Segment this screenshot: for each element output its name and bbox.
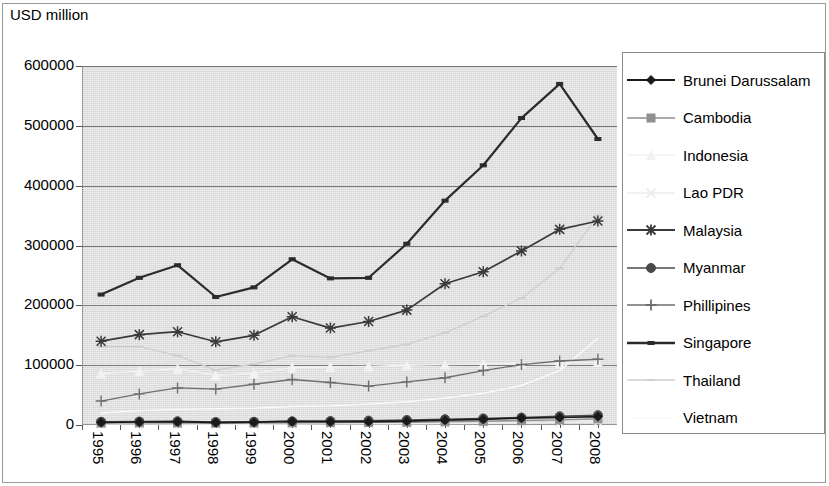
- x-marker: [623, 183, 683, 203]
- series-indonesia: [97, 358, 603, 380]
- none-marker: [623, 408, 683, 428]
- series-brunei-darussalam: [97, 412, 603, 427]
- legend-item-malaysia[interactable]: Malaysia: [623, 211, 826, 249]
- legend-item-singapore[interactable]: Singapore: [623, 324, 826, 362]
- y-axis-tick-label: 600000: [2, 56, 74, 73]
- y-axis-tick-label: 500000: [2, 116, 74, 133]
- legend-label: Cambodia: [683, 109, 751, 126]
- y-axis-title: USD million: [10, 6, 88, 23]
- series-thailand: [97, 215, 602, 371]
- legend-label: Vietnam: [683, 409, 738, 426]
- x-axis-tick: [197, 425, 198, 430]
- x-axis-tick: [350, 425, 351, 430]
- x-axis-tick-label: 2000: [281, 431, 298, 464]
- legend-label: Malaysia: [683, 222, 742, 239]
- x-axis-minor-tick: [521, 425, 522, 428]
- legend-label: Indonesia: [683, 147, 748, 164]
- y-axis-tick-label: 200000: [2, 295, 74, 312]
- legend-item-thailand[interactable]: Thailand: [623, 361, 826, 399]
- x-axis-tick: [311, 425, 312, 430]
- x-axis-tick-label: 2007: [549, 431, 566, 464]
- triangle-marker: [623, 145, 683, 165]
- x-axis-minor-tick: [598, 425, 599, 428]
- x-axis-tick-label: 1996: [128, 431, 145, 464]
- chart-screenshot: USD million 0100000200000300000400000500…: [0, 0, 829, 486]
- x-axis-tick: [579, 425, 580, 430]
- series-lines: [82, 66, 617, 425]
- legend-item-cambodia[interactable]: Cambodia: [623, 99, 826, 137]
- x-axis-tick: [541, 425, 542, 430]
- x-axis-tick-label: 2006: [510, 431, 527, 464]
- series-vietnam: [101, 338, 598, 413]
- plot-area: [82, 66, 617, 425]
- x-axis-tick-label: 2005: [472, 431, 489, 464]
- legend-label: Brunei Darussalam: [683, 72, 811, 89]
- x-axis-tick: [502, 425, 503, 430]
- series-phillipines: [96, 354, 604, 407]
- x-axis-tick-label: 2003: [396, 431, 413, 464]
- legend-item-lao-pdr[interactable]: Lao PDR: [623, 174, 826, 212]
- y-axis-tick-label: 300000: [2, 236, 74, 253]
- x-axis-tick: [426, 425, 427, 430]
- asterisk-marker: [623, 220, 683, 240]
- legend-label: Phillipines: [683, 297, 751, 314]
- legend-item-myanmar[interactable]: Myanmar: [623, 249, 826, 287]
- x-axis-tick: [82, 425, 83, 430]
- legend-label: Thailand: [683, 372, 741, 389]
- x-axis-tick-label: 1995: [90, 431, 107, 464]
- series-malaysia: [96, 215, 604, 347]
- circle-marker: [623, 258, 683, 278]
- x-axis-tick-label: 2004: [434, 431, 451, 464]
- x-axis-tick: [464, 425, 465, 430]
- x-axis-tick-label: 1997: [167, 431, 184, 464]
- legend-item-vietnam[interactable]: Vietnam: [623, 399, 826, 437]
- y-axis-tick-label: 400000: [2, 176, 74, 193]
- x-axis-tick-label: 2002: [358, 431, 375, 464]
- legend-item-indonesia[interactable]: Indonesia: [623, 136, 826, 174]
- x-axis-tick: [273, 425, 274, 430]
- chart-legend: Brunei DarussalamCambodiaIndonesiaLao PD…: [622, 52, 825, 434]
- x-axis-tick: [120, 425, 121, 430]
- x-axis-tick-label: 2001: [319, 431, 336, 464]
- x-axis-tick-label: 2008: [587, 431, 604, 464]
- x-axis-tick: [388, 425, 389, 430]
- legend-item-phillipines[interactable]: Phillipines: [623, 286, 826, 324]
- x-axis-tick: [158, 425, 159, 430]
- series-singapore: [98, 82, 601, 298]
- x-axis-minor-tick: [560, 425, 561, 428]
- dash-marker: [623, 370, 683, 390]
- x-axis-tick: [235, 425, 236, 430]
- legend-item-brunei-darussalam[interactable]: Brunei Darussalam: [623, 61, 826, 99]
- y-axis-tick-label: 100000: [2, 355, 74, 372]
- x-axis-tick-label: 1999: [243, 431, 260, 464]
- bar-marker: [623, 333, 683, 353]
- legend-label: Singapore: [683, 334, 751, 351]
- y-axis-tick-label: 0: [2, 415, 74, 432]
- square-marker: [623, 108, 683, 128]
- plus-marker: [623, 295, 683, 315]
- diamond-marker: [623, 70, 683, 90]
- legend-label: Myanmar: [683, 259, 746, 276]
- x-axis-tick-label: 1998: [205, 431, 222, 464]
- legend-label: Lao PDR: [683, 184, 744, 201]
